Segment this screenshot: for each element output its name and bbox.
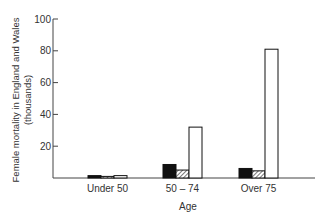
- y-axis-title-units: (thousands): [22, 75, 33, 125]
- bars: [88, 49, 278, 178]
- y-tick-label: 40: [40, 109, 52, 120]
- y-tick-label: 60: [40, 77, 52, 88]
- y-tick-label: 100: [34, 14, 51, 25]
- bar: [88, 176, 101, 178]
- bar-chart: 20406080100 Under 5050 – 74Over 75 Age F…: [0, 0, 325, 219]
- x-tick-label: Over 75: [241, 183, 277, 194]
- bar: [239, 168, 252, 178]
- bar: [101, 176, 114, 178]
- y-axis-title: Female mortality in England and Wales: [10, 17, 21, 182]
- bar: [189, 127, 202, 178]
- x-tick-label: Under 50: [87, 183, 129, 194]
- y-tick-label: 20: [40, 141, 52, 152]
- bar: [114, 176, 127, 178]
- chart: 20406080100 Under 5050 – 74Over 75 Age F…: [0, 0, 325, 219]
- x-axis-labels: Under 5050 – 74Over 75: [87, 183, 277, 194]
- x-tick-label: 50 – 74: [166, 183, 200, 194]
- bar: [265, 49, 278, 178]
- bar: [252, 171, 265, 178]
- bar: [163, 164, 176, 178]
- x-axis-title: Age: [179, 201, 197, 212]
- bar: [176, 170, 189, 178]
- y-tick-label: 80: [40, 45, 52, 56]
